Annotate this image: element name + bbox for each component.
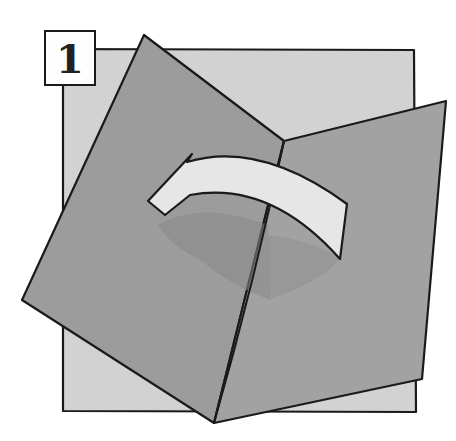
step-number-badge: 1 <box>44 30 96 86</box>
step-number: 1 <box>56 35 84 82</box>
